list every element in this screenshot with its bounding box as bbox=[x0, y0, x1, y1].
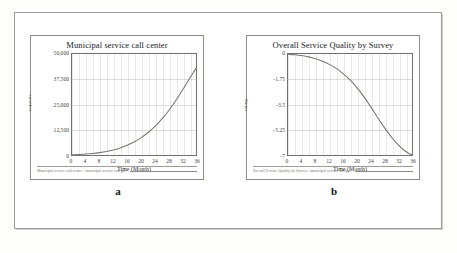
series-curve-b bbox=[288, 54, 412, 155]
y-tick-a-3: 37,500 bbox=[31, 76, 69, 82]
y-tick-a-0: 0 bbox=[31, 153, 69, 159]
x-tick-a-3: 12 bbox=[110, 158, 116, 164]
x-tick-b-7: 28 bbox=[382, 158, 388, 164]
x-tick-b-2: 8 bbox=[314, 158, 317, 164]
x-tick-b-8: 32 bbox=[396, 158, 402, 164]
x-tick-a-0: 0 bbox=[70, 158, 73, 164]
plot-wrap-a bbox=[71, 53, 197, 156]
x-tick-a-4: 16 bbox=[124, 158, 130, 164]
legend-b: Overall Service Quality by Survey : muni… bbox=[253, 167, 413, 175]
y-tick-b-3: -1.75 bbox=[247, 76, 285, 82]
y-tick-b-0: -7 bbox=[247, 153, 285, 159]
x-tick-a-7: 28 bbox=[166, 158, 172, 164]
x-tick-a-8: 32 bbox=[180, 158, 186, 164]
x-tick-b-5: 20 bbox=[354, 158, 360, 164]
y-axis-labels-b: rating 0 -1.75 -3.5 -5.25 -7 bbox=[247, 53, 285, 156]
panel-letter-b: b bbox=[246, 185, 422, 197]
panel-b: Overall Service Quality by Survey rating… bbox=[246, 35, 422, 200]
y-tick-b-2: -3.5 bbox=[247, 102, 285, 108]
x-tick-a-2: 8 bbox=[98, 158, 101, 164]
y-axis-labels-a: requests 50,000 37,500 25,000 12,500 0 bbox=[31, 53, 69, 156]
plot-wrap-b bbox=[287, 53, 413, 156]
series-curve-a bbox=[72, 54, 196, 155]
x-tick-a-5: 20 bbox=[138, 158, 144, 164]
chart-box-b: Overall Service Quality by Survey rating… bbox=[246, 35, 420, 180]
x-tick-b-1: 4 bbox=[300, 158, 303, 164]
chart-box-a: Municipal service call center requests 5… bbox=[30, 35, 204, 180]
panel-letter-a: a bbox=[30, 185, 206, 197]
plot-area-b bbox=[287, 53, 413, 156]
figure-outer-frame: Municipal service call center requests 5… bbox=[14, 12, 442, 229]
x-tick-b-0: 0 bbox=[286, 158, 289, 164]
x-tick-b-6: 24 bbox=[368, 158, 374, 164]
legend-line-a bbox=[130, 171, 197, 172]
legend-label-b: Overall Service Quality by Survey : muni… bbox=[253, 169, 351, 173]
y-tick-a-2: 25,000 bbox=[31, 102, 69, 108]
legend-a: Municipal service call center : municipa… bbox=[37, 167, 197, 175]
figure-page: Municipal service call center requests 5… bbox=[0, 0, 457, 253]
x-tick-b-9: 36 bbox=[410, 158, 416, 164]
x-tick-a-6: 24 bbox=[152, 158, 158, 164]
legend-line-b bbox=[355, 171, 413, 172]
stray-scan-mark: - bbox=[428, 155, 429, 160]
plot-area-a bbox=[71, 53, 197, 156]
chart-title-a: Municipal service call center bbox=[31, 40, 203, 50]
y-tick-b-1: -5.25 bbox=[247, 127, 285, 133]
x-tick-a-9: 36 bbox=[194, 158, 200, 164]
chart-title-b: Overall Service Quality by Survey bbox=[247, 40, 419, 50]
x-tick-b-4: 16 bbox=[340, 158, 346, 164]
x-tick-a-1: 4 bbox=[84, 158, 87, 164]
y-tick-a-4: 50,000 bbox=[31, 50, 69, 56]
legend-label-a: Municipal service call center : municipa… bbox=[37, 169, 126, 173]
y-tick-b-4: 0 bbox=[247, 50, 285, 56]
panel-a: Municipal service call center requests 5… bbox=[30, 35, 206, 200]
x-tick-b-3: 12 bbox=[326, 158, 332, 164]
y-tick-a-1: 12,500 bbox=[31, 127, 69, 133]
